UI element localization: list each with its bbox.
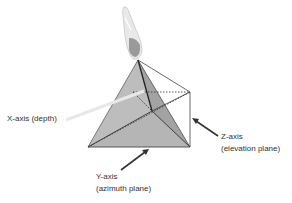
ultrasound-probe-icon bbox=[123, 7, 142, 59]
z-axis-label: Z-axis bbox=[221, 132, 243, 142]
z-axis-arrow-icon bbox=[192, 118, 218, 136]
x-axis-label: X-axis (depth) bbox=[7, 114, 57, 124]
pyramid-diagram bbox=[0, 0, 292, 203]
y-axis-label: Y-axis bbox=[96, 172, 118, 182]
z-axis-sublabel: (elevation plane) bbox=[221, 144, 280, 154]
y-axis-arrow-icon bbox=[121, 149, 149, 170]
pyramid-volume bbox=[88, 60, 190, 147]
y-axis-sublabel: (azimuth plane) bbox=[96, 184, 151, 194]
